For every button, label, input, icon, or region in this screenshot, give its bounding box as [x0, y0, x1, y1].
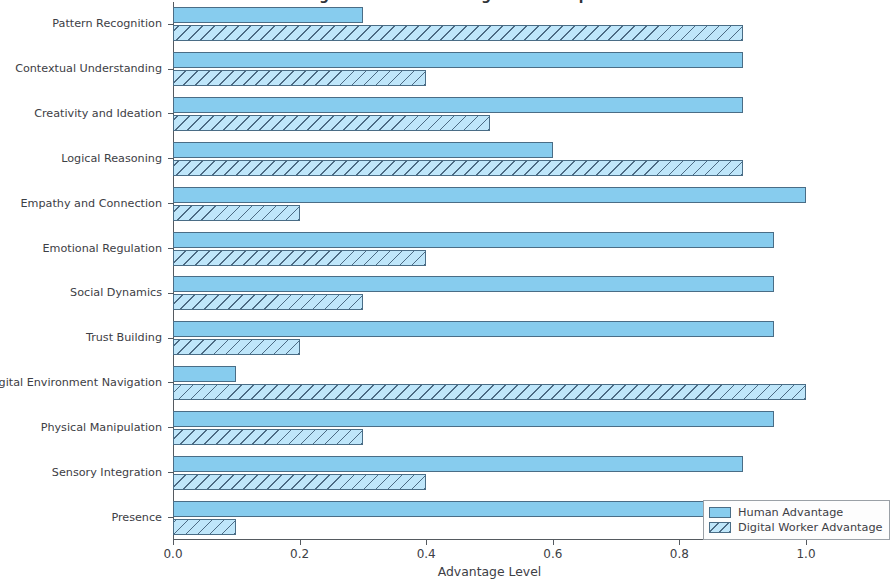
bar-group — [173, 321, 869, 357]
bar-human-advantage[interactable] — [173, 321, 774, 337]
bar-human-advantage[interactable] — [173, 187, 806, 203]
x-axis-tick — [806, 540, 807, 545]
bar-human-advantage[interactable] — [173, 97, 743, 113]
bar-group — [173, 52, 869, 88]
y-axis-tick-label: Contextual Understanding — [15, 63, 162, 75]
legend-row[interactable]: Human Advantage — [709, 505, 883, 520]
bar-human-advantage[interactable] — [173, 142, 553, 158]
x-axis-tick-label: 0.6 — [543, 547, 562, 561]
bar-group — [173, 366, 869, 402]
bar-group — [173, 456, 869, 492]
bar-digital-worker-advantage[interactable] — [173, 70, 426, 86]
legend-swatch-digital-icon — [709, 522, 731, 533]
bar-digital-worker-advantage[interactable] — [173, 429, 363, 445]
x-axis-tick-label: 1.0 — [796, 547, 815, 561]
bar-digital-worker-advantage[interactable] — [173, 294, 363, 310]
bar-group — [173, 142, 869, 178]
bar-human-advantage[interactable] — [173, 456, 743, 472]
x-axis-tick-label: 0.0 — [163, 547, 182, 561]
bar-digital-worker-advantage[interactable] — [173, 519, 236, 535]
bar-group — [173, 7, 869, 43]
bar-digital-worker-advantage[interactable] — [173, 115, 490, 131]
legend-label: Digital Worker Advantage — [738, 521, 883, 534]
bar-digital-worker-advantage[interactable] — [173, 250, 426, 266]
x-axis-tick — [300, 540, 301, 545]
bar-human-advantage[interactable] — [173, 7, 363, 23]
bar-group — [173, 187, 869, 223]
bar-digital-worker-advantage[interactable] — [173, 205, 300, 221]
bar-group — [173, 411, 869, 447]
x-axis-tick — [173, 540, 174, 545]
bar-digital-worker-advantage[interactable] — [173, 474, 426, 490]
bar-human-advantage[interactable] — [173, 366, 236, 382]
y-axis-tick-label: Presence — [111, 512, 162, 524]
x-axis-tick-label: 0.8 — [670, 547, 689, 561]
y-axis-tick-label: Sensory Integration — [52, 467, 162, 479]
legend-swatch-human-icon — [709, 507, 731, 518]
bar-group — [173, 232, 869, 268]
bar-group — [173, 97, 869, 133]
y-axis-tick-label: Emotional Regulation — [42, 243, 162, 255]
legend-label: Human Advantage — [738, 506, 843, 519]
x-axis-tick-label: 0.4 — [417, 547, 436, 561]
legend-row[interactable]: Digital Worker Advantage — [709, 520, 883, 535]
x-axis-tick — [679, 540, 680, 545]
bar-digital-worker-advantage[interactable] — [173, 384, 806, 400]
bar-human-advantage[interactable] — [173, 411, 774, 427]
y-axis-labels: Pattern RecognitionContextual Understand… — [0, 0, 168, 580]
x-axis-title: Advantage Level — [173, 564, 806, 579]
bar-digital-worker-advantage[interactable] — [173, 25, 743, 41]
x-axis-tick — [426, 540, 427, 545]
bar-digital-worker-advantage[interactable] — [173, 339, 300, 355]
y-axis-tick-label: Digital Environment Navigation — [0, 377, 162, 389]
bar-human-advantage[interactable] — [173, 276, 774, 292]
x-axis-tick — [553, 540, 554, 545]
y-axis-tick-label: Empathy and Connection — [21, 198, 162, 210]
bar-digital-worker-advantage[interactable] — [173, 160, 743, 176]
y-axis-tick-label: Trust Building — [86, 332, 162, 344]
y-axis-tick-label: Physical Manipulation — [41, 422, 162, 434]
y-axis-tick-label: Logical Reasoning — [61, 153, 162, 165]
y-axis-tick-label: Creativity and Ideation — [34, 108, 162, 120]
y-axis-tick-label: Social Dynamics — [70, 287, 162, 299]
chart-legend[interactable]: Human AdvantageDigital Worker Advantage — [703, 500, 890, 540]
bar-human-advantage[interactable] — [173, 52, 743, 68]
bar-human-advantage[interactable] — [173, 232, 774, 248]
x-axis-tick-label: 0.2 — [290, 547, 309, 561]
bar-group — [173, 276, 869, 312]
y-axis-tick-label: Pattern Recognition — [52, 18, 162, 30]
